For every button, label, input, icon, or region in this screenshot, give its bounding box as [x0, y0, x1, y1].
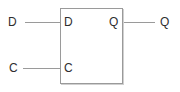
internal-pin-label-q: Q	[109, 15, 118, 29]
wire-output-q	[124, 22, 155, 23]
external-input-label-d: D	[8, 15, 17, 29]
wire-input-c	[23, 68, 60, 69]
external-input-label-c: C	[9, 61, 18, 75]
d-flip-flop-diagram: D C Q D C Q	[0, 0, 180, 92]
internal-pin-label-c: C	[64, 61, 73, 75]
internal-pin-label-d: D	[64, 15, 73, 29]
external-output-label-q: Q	[160, 15, 169, 29]
wire-input-d	[25, 22, 60, 23]
